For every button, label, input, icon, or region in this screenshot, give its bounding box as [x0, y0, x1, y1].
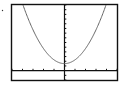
corner-dot: [2, 10, 3, 11]
graph-screen: [0, 0, 123, 86]
